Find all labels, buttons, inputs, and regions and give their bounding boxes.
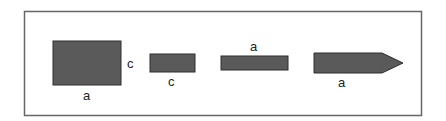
arrow-label-bottom: a <box>338 75 346 90</box>
square-label-bottom: a <box>83 88 91 103</box>
square-label-side: c <box>127 56 134 71</box>
square-shape <box>53 41 121 85</box>
diagram-canvas: c a c a a <box>0 0 446 121</box>
rectangle-shape <box>150 54 195 72</box>
rectangle-label-bottom: c <box>168 74 175 89</box>
bar-label-top: a <box>250 39 258 54</box>
bar-shape <box>221 56 288 70</box>
